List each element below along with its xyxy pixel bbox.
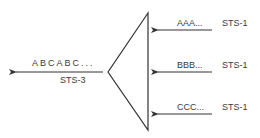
output-sequence-label: ABCABC... [32,58,95,68]
input-c-signal-label: STS-1 [222,102,248,112]
mux-diagram [0,0,260,138]
multiplexer-triangle [108,13,148,130]
input-a-signal-label: STS-1 [222,18,248,28]
input-b-signal-label: STS-1 [222,60,248,70]
output-signal-label: STS-3 [60,75,86,85]
input-a-sequence-label: AAA... [177,18,203,28]
input-b-sequence-label: BBB... [177,60,203,70]
input-c-sequence-label: CCC... [177,102,204,112]
